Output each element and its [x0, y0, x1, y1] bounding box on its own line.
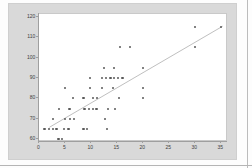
y-tick-mark: [36, 36, 38, 37]
scatter-point: [121, 77, 123, 79]
y-tick-label: 110: [27, 34, 35, 39]
y-tick-mark: [36, 118, 38, 119]
x-tick-label: 30: [192, 145, 198, 150]
y-tick-mark: [36, 97, 38, 98]
trend-line-layer: [39, 14, 225, 141]
scatter-point: [58, 108, 60, 110]
screenshot-stage: 05101520253035 60708090100110120: [0, 0, 252, 168]
scatter-point: [82, 128, 84, 130]
x-tick-label: 20: [140, 145, 146, 150]
scatter-point: [92, 108, 94, 110]
scatter-point: [67, 128, 69, 130]
x-tick-label: 10: [88, 145, 94, 150]
plot-area: [38, 13, 226, 142]
y-tick-mark: [36, 77, 38, 78]
x-tick-mark: [116, 141, 117, 143]
x-axis: [38, 141, 227, 142]
trend-line: [50, 26, 223, 127]
y-axis: [38, 13, 39, 142]
x-tick-label: 5: [63, 145, 66, 150]
scatter-point: [52, 128, 54, 130]
scatter-point: [69, 118, 71, 120]
chart-panel: 05101520253035 60708090100110120: [8, 3, 237, 160]
scatter-point: [48, 128, 50, 130]
y-tick-label: 100: [27, 54, 35, 59]
scatter-point: [88, 108, 90, 110]
x-tick-mark: [142, 141, 143, 143]
y-tick-label: 80: [30, 95, 36, 100]
scatter-point: [55, 128, 57, 130]
scatter-point: [95, 108, 97, 110]
scatter-point: [83, 108, 85, 110]
y-tick-label: 90: [30, 75, 36, 80]
x-tick-label: 0: [37, 145, 40, 150]
scatter-point: [114, 108, 116, 110]
scatter-point: [43, 128, 45, 130]
x-tick-mark: [38, 141, 39, 143]
x-tick-label: 35: [218, 145, 224, 150]
y-tick-label: 120: [27, 13, 35, 18]
y-tick-mark: [36, 16, 38, 17]
y-tick-mark: [36, 57, 38, 58]
scatter-point: [107, 108, 109, 110]
x-tick-mark: [220, 141, 221, 143]
scatter-point: [109, 77, 111, 79]
scatter-point: [68, 108, 70, 110]
y-tick-label: 60: [30, 136, 36, 141]
y-tick-label: 70: [30, 115, 36, 120]
x-tick-label: 25: [166, 145, 172, 150]
x-tick-label: 15: [114, 145, 120, 150]
right-edge-divider: [247, 0, 248, 168]
bottom-edge-divider: [0, 165, 252, 166]
x-tick-mark: [90, 141, 91, 143]
x-tick-mark: [194, 141, 195, 143]
x-tick-mark: [168, 141, 169, 143]
y-tick-mark: [36, 138, 38, 139]
x-tick-mark: [64, 141, 65, 143]
